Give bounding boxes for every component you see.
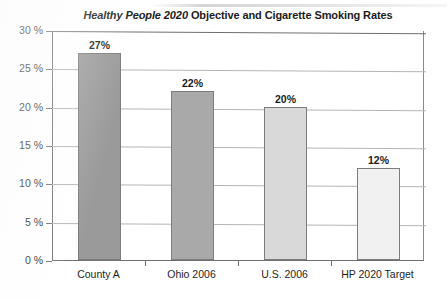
x-axis-tick <box>331 261 332 266</box>
y-axis-label: 15 % <box>0 139 43 151</box>
x-axis-tick <box>238 261 239 266</box>
x-axis-label: HP 2020 Target <box>341 268 414 280</box>
x-axis-tick <box>145 261 146 266</box>
x-axis-label: U.S. 2006 <box>261 268 308 280</box>
plot-area: 27%22%20%12% <box>52 31 424 261</box>
bar-hp-2020-target <box>357 168 400 260</box>
y-axis-label: 0 % <box>0 254 43 266</box>
y-axis-label: 5 % <box>0 216 43 228</box>
bar-u-s-2006 <box>264 107 307 260</box>
y-axis-label: 10 % <box>0 177 43 189</box>
chart-title: Healthy People 2020 Objective and Cigare… <box>52 9 424 21</box>
y-axis-label: 25 % <box>0 62 43 74</box>
bar-county-a <box>78 53 121 260</box>
bar-ohio-2006 <box>171 91 214 260</box>
bar-value-label: 22% <box>182 77 203 89</box>
y-axis-tick <box>46 261 52 262</box>
x-axis-label: Ohio 2006 <box>167 268 215 280</box>
bar-value-label: 12% <box>368 154 389 166</box>
gridline <box>52 31 426 34</box>
chart-title-regular: Objective and Cigarette Smoking Rates <box>188 9 393 21</box>
bar-value-label: 20% <box>275 93 296 105</box>
bar-chart: Healthy People 2020 Objective and Cigare… <box>0 0 447 299</box>
bar-value-label: 27% <box>89 39 110 51</box>
y-axis-label: 20 % <box>0 101 43 113</box>
x-axis-label: County A <box>77 268 120 280</box>
y-axis-label: 30 % <box>0 24 43 36</box>
chart-title-italic: Healthy People 2020 <box>83 9 188 21</box>
